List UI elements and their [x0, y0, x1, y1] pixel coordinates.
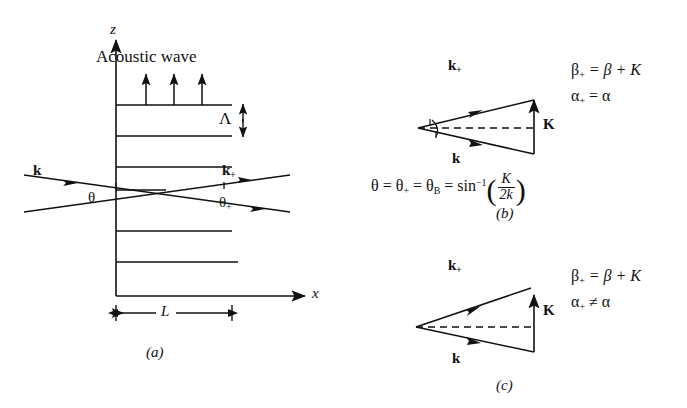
panel-b-beta-equation: β+ = β + K — [571, 62, 641, 80]
panel-c-k-plus-label: k+ — [448, 258, 462, 275]
diffracted-wavevector-label: k+ — [222, 163, 236, 180]
diffraction-angle-subscript: + — [226, 202, 231, 212]
bragg-fraction: K2k — [498, 172, 515, 203]
panel-b-alpha-equation: α+ = α — [571, 88, 610, 106]
panel-c-beta-symbol: β — [571, 267, 579, 284]
bragg-theta-B-subscript: B — [434, 185, 441, 196]
bragg-theta-B: θ — [426, 177, 434, 194]
bragg-theta-plus-subscript: + — [403, 185, 409, 196]
bragg-angle-equation: θ = θ+ = θB = sin−1(K2k) — [371, 172, 526, 205]
bragg-paren-open: ( — [487, 173, 497, 206]
panel-c-alpha-subscript: + — [579, 301, 585, 312]
z-axis-label: z — [110, 22, 116, 37]
panel-b-beta-symbol: β — [571, 61, 579, 78]
panel-c-beta-equation: β+ = β + K — [571, 268, 641, 286]
bragg-paren-close: ) — [516, 173, 526, 206]
panel-b-k-plus-label: k+ — [448, 58, 462, 75]
vector-k — [416, 327, 534, 352]
panel-c-K-label: K — [543, 303, 555, 318]
incidence-angle-label: θ — [88, 190, 95, 205]
caption-panel-a: (a) — [146, 345, 164, 360]
diffracted-ray-arrowhead — [237, 177, 252, 183]
caption-panel-c: (c) — [496, 378, 513, 393]
bragg-equals-3: = — [444, 177, 453, 194]
panel-c-beta-subscript: + — [579, 275, 585, 286]
caption-panel-b: (b) — [496, 206, 514, 221]
panel-b-alpha-subscript: + — [579, 95, 585, 106]
panel-b-k-plus-subscript: + — [456, 65, 461, 75]
bragg-sin-exponent: −1 — [476, 177, 487, 188]
grating-lines — [116, 105, 238, 262]
diffraction-angle-label: θ+ — [219, 195, 231, 212]
grating-period-label: Λ — [219, 110, 231, 127]
vector-k-plus-arrowhead — [468, 110, 483, 118]
bragg-sin-func: sin — [457, 177, 476, 194]
panel-b-graphics — [418, 100, 534, 154]
panel-b-alpha-rhs: = α — [589, 87, 610, 104]
incident-wavevector-label: k — [33, 163, 41, 178]
bragg-theta: θ — [371, 177, 379, 194]
bragg-fraction-numerator: K — [498, 172, 515, 187]
panel-c-graphics — [416, 288, 534, 352]
panel-c-alpha-rhs: ≠ α — [589, 293, 610, 310]
acoustic-wave-label: Acoustic wave — [96, 48, 197, 65]
panel-a-graphics — [24, 40, 305, 321]
bragg-equals-2: = — [413, 177, 422, 194]
x-axis-label: x — [312, 286, 319, 301]
interaction-length-label: L — [161, 304, 169, 319]
length-dimension — [108, 305, 238, 321]
panel-c-beta-rhs: = β + K — [589, 267, 641, 284]
panel-b-beta-subscript: + — [579, 69, 585, 80]
panel-c-alpha-equation: α+ ≠ α — [571, 294, 610, 312]
bragg-fraction-denominator: 2k — [498, 187, 515, 203]
panel-b-beta-rhs: = β + K — [589, 61, 641, 78]
panel-b-k-label: k — [452, 151, 460, 166]
vector-k-plus — [416, 288, 531, 327]
diffracted-wavevector-subscript: + — [230, 170, 235, 180]
panel-c-k-plus-subscript: + — [456, 265, 461, 275]
acoustic-wave-arrows — [146, 74, 202, 105]
panel-b-K-label: K — [543, 117, 555, 132]
incident-wavevector-symbol: k — [33, 162, 41, 178]
figure-canvas: z x Acoustic wave Λ k k+ θ θ+ L (a) k+ k… — [0, 0, 687, 408]
bragg-equals-1: = — [383, 177, 392, 194]
panel-c-k-label: k — [452, 351, 460, 366]
